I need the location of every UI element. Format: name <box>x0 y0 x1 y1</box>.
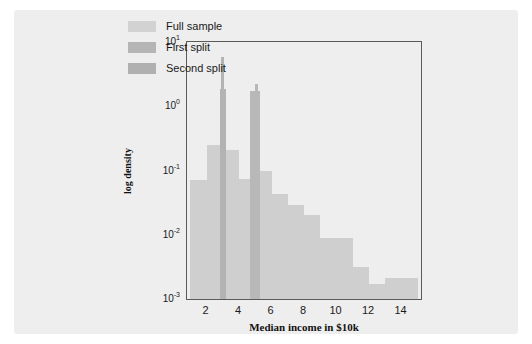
histogram-bar <box>402 278 418 299</box>
y-tick-minor <box>186 190 187 191</box>
y-tick-minor <box>186 268 187 269</box>
split-spike-peak <box>221 57 223 299</box>
x-tick-mark-top <box>239 41 240 42</box>
histogram-bar <box>272 194 288 299</box>
y-tick-mark <box>186 235 187 236</box>
y-tick-minor <box>186 132 187 133</box>
histogram-bar <box>385 278 401 299</box>
split-spike-peak <box>255 84 257 299</box>
x-tick-label: 2 <box>202 304 208 316</box>
y-tick-minor <box>186 185 187 186</box>
y-tick-minor <box>186 249 187 250</box>
figure-panel: log density Median income in $10k Full s… <box>14 10 518 334</box>
x-tick-mark <box>207 299 208 300</box>
x-tick-label: 4 <box>235 304 241 316</box>
y-tick-mark <box>186 106 187 107</box>
legend-label: Second split <box>166 62 226 74</box>
x-tick-mark-top <box>402 41 403 42</box>
y-tick-label: 10-3 <box>148 293 180 304</box>
x-tick-label: 6 <box>267 304 273 316</box>
x-tick-mark <box>369 299 370 300</box>
y-tick-minor <box>186 254 187 255</box>
x-tick-mark <box>272 299 273 300</box>
legend-label: Full sample <box>166 20 222 32</box>
y-tick-minor <box>186 151 187 152</box>
y-tick-minor <box>186 109 187 110</box>
y-tick-mark <box>186 171 187 172</box>
y-tick-minor <box>186 280 187 281</box>
legend-item[interactable]: Second split <box>128 62 226 74</box>
x-tick-mark <box>402 299 403 300</box>
legend-swatch <box>128 63 156 74</box>
y-tick-minor <box>186 140 187 141</box>
y-tick-minor <box>186 215 187 216</box>
y-tick-minor <box>186 238 187 239</box>
histogram-bar <box>288 205 304 299</box>
histogram-bar <box>304 215 320 299</box>
x-tick-mark-top <box>304 41 305 42</box>
x-tick-label: 10 <box>329 304 341 316</box>
y-tick-minor <box>186 112 187 113</box>
y-tick-minor <box>186 196 187 197</box>
x-tick-mark <box>337 299 338 300</box>
y-tick-minor <box>186 121 187 122</box>
x-tick-label: 14 <box>394 304 406 316</box>
x-tick-mark <box>239 299 240 300</box>
x-tick-mark-top <box>369 41 370 42</box>
y-tick-minor <box>186 241 187 242</box>
y-tick-minor <box>186 87 187 88</box>
x-tick-mark-top <box>272 41 273 42</box>
legend-swatch <box>128 21 156 32</box>
y-tick-minor <box>186 173 187 174</box>
y-tick-minor <box>186 204 187 205</box>
y-tick-minor <box>186 126 187 127</box>
y-tick-minor <box>186 245 187 246</box>
y-tick-label: 10-1 <box>148 164 180 175</box>
y-tick-minor <box>186 177 187 178</box>
x-tick-mark <box>304 299 305 300</box>
y-tick-minor <box>186 260 187 261</box>
y-tick-minor <box>186 116 187 117</box>
legend: Full sampleFirst splitSecond split <box>128 20 226 83</box>
y-tick-mark <box>186 299 187 300</box>
histogram-bar <box>320 238 336 299</box>
x-tick-label: 12 <box>362 304 374 316</box>
legend-item[interactable]: Full sample <box>128 20 226 32</box>
y-tick-label: 10-2 <box>148 228 180 239</box>
x-axis-label: Median income in $10k <box>186 321 422 333</box>
histogram-bar <box>369 284 385 299</box>
y-tick-minor <box>186 180 187 181</box>
histogram-bar <box>190 180 206 299</box>
histogram-bar <box>353 267 369 299</box>
histogram-bar <box>337 238 353 299</box>
y-tick-label: 101 <box>148 36 180 47</box>
x-tick-mark-top <box>337 41 338 42</box>
y-tick-label: 100 <box>148 100 180 111</box>
x-tick-label: 8 <box>300 304 306 316</box>
y-axis-label: log density <box>122 148 133 194</box>
